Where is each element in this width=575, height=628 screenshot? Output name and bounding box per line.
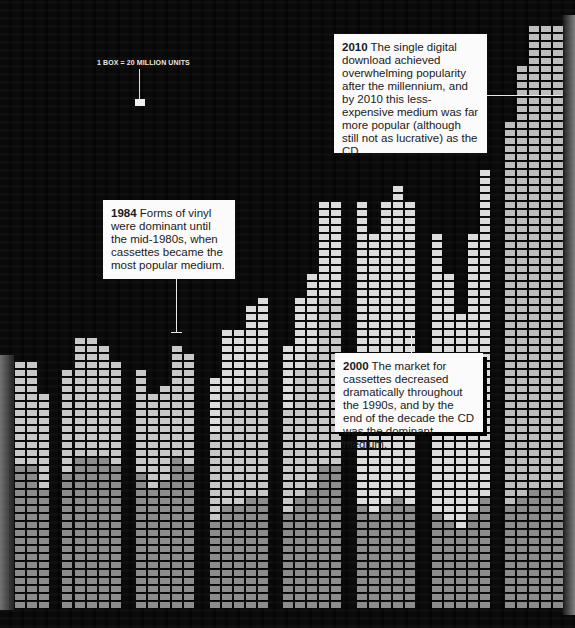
unit-box bbox=[517, 154, 527, 160]
unit-box bbox=[87, 602, 97, 608]
unit-box bbox=[148, 546, 158, 552]
unit-box bbox=[295, 562, 305, 568]
unit-box bbox=[62, 522, 72, 528]
unit-box bbox=[246, 402, 256, 408]
unit-box bbox=[172, 474, 182, 480]
unit-box bbox=[393, 250, 403, 256]
unit-box bbox=[148, 514, 158, 520]
unit-box bbox=[529, 170, 539, 176]
unit-box bbox=[541, 274, 551, 280]
unit-box bbox=[99, 410, 109, 416]
unit-box bbox=[319, 602, 329, 608]
unit-box bbox=[295, 522, 305, 528]
unit-box bbox=[307, 546, 317, 552]
unit-box bbox=[222, 394, 232, 400]
unit-box bbox=[295, 546, 305, 552]
unit-box bbox=[258, 394, 268, 400]
unit-box bbox=[405, 554, 415, 560]
unit-box bbox=[432, 530, 442, 536]
unit-box bbox=[541, 106, 551, 112]
unit-box bbox=[517, 322, 527, 328]
unit-box bbox=[62, 546, 72, 552]
unit-box bbox=[331, 346, 341, 352]
unit-box bbox=[184, 426, 194, 432]
unit-box bbox=[541, 34, 551, 40]
unit-box bbox=[27, 554, 37, 560]
unit-box bbox=[529, 106, 539, 112]
unit-box bbox=[87, 410, 97, 416]
scale-legend-box bbox=[135, 99, 145, 106]
unit-box bbox=[99, 386, 109, 392]
unit-box bbox=[529, 394, 539, 400]
unit-box bbox=[393, 594, 403, 600]
unit-box bbox=[319, 298, 329, 304]
unit-box bbox=[517, 274, 527, 280]
unit-box bbox=[99, 466, 109, 472]
callout-1984: 1984 Forms of vinyl were dominant until … bbox=[103, 200, 235, 279]
unit-box bbox=[222, 426, 232, 432]
unit-box bbox=[357, 274, 367, 280]
unit-box bbox=[15, 442, 25, 448]
unit-box bbox=[529, 210, 539, 216]
unit-box bbox=[529, 226, 539, 232]
unit-box bbox=[319, 554, 329, 560]
unit-box bbox=[87, 378, 97, 384]
unit-box bbox=[136, 466, 146, 472]
unit-box bbox=[39, 402, 49, 408]
unit-box bbox=[405, 482, 415, 488]
unit-box bbox=[480, 274, 490, 280]
unit-box bbox=[258, 458, 268, 464]
unit-box bbox=[307, 306, 317, 312]
unit-box bbox=[517, 202, 527, 208]
unit-box bbox=[331, 506, 341, 512]
unit-box bbox=[210, 410, 220, 416]
unit-box bbox=[111, 522, 121, 528]
unit-box bbox=[246, 426, 256, 432]
unit-box bbox=[75, 378, 85, 384]
unit-box bbox=[136, 386, 146, 392]
unit-box bbox=[393, 290, 403, 296]
unit-box bbox=[184, 570, 194, 576]
unit-box bbox=[456, 530, 466, 536]
unit-box bbox=[75, 410, 85, 416]
unit-box bbox=[444, 506, 454, 512]
unit-box bbox=[258, 418, 268, 424]
unit-box bbox=[258, 426, 268, 432]
unit-box bbox=[234, 474, 244, 480]
unit-box bbox=[517, 250, 527, 256]
unit-box bbox=[357, 250, 367, 256]
unit-box bbox=[87, 386, 97, 392]
unit-box bbox=[283, 362, 293, 368]
unit-box bbox=[517, 74, 527, 80]
unit-box bbox=[505, 242, 515, 248]
unit-box bbox=[148, 410, 158, 416]
unit-box bbox=[148, 418, 158, 424]
unit-box bbox=[210, 586, 220, 592]
unit-box bbox=[160, 490, 170, 496]
unit-box bbox=[357, 314, 367, 320]
unit-box bbox=[307, 434, 317, 440]
unit-box bbox=[234, 570, 244, 576]
unit-box bbox=[517, 114, 527, 120]
unit-box bbox=[369, 266, 379, 272]
unit-box bbox=[27, 578, 37, 584]
unit-box bbox=[517, 474, 527, 480]
scale-legend-leader bbox=[139, 69, 140, 99]
unit-box bbox=[160, 570, 170, 576]
unit-box bbox=[541, 266, 551, 272]
unit-box bbox=[15, 474, 25, 480]
unit-box bbox=[283, 474, 293, 480]
unit-box bbox=[136, 394, 146, 400]
unit-box bbox=[234, 514, 244, 520]
unit-box bbox=[210, 554, 220, 560]
unit-box bbox=[517, 570, 527, 576]
unit-box bbox=[27, 498, 37, 504]
unit-box bbox=[184, 394, 194, 400]
unit-box bbox=[307, 402, 317, 408]
unit-box bbox=[136, 490, 146, 496]
unit-box bbox=[529, 538, 539, 544]
unit-box bbox=[331, 594, 341, 600]
unit-box bbox=[148, 498, 158, 504]
unit-box bbox=[136, 482, 146, 488]
unit-box bbox=[432, 586, 442, 592]
